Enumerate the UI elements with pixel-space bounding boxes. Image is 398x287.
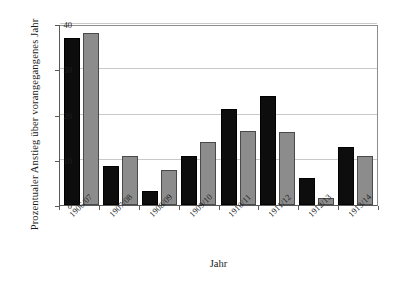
bar-group (297, 26, 336, 205)
x-tick-mark (378, 206, 379, 210)
bar-1906-07-s2 (83, 33, 99, 205)
bar-1907-08-s1 (103, 166, 119, 205)
bar-chart-figure: Prozentualer Anstieg über vorangegangene… (0, 0, 398, 287)
bar-group (258, 26, 297, 205)
bar-group (179, 26, 218, 205)
y-tick-mark (55, 116, 60, 117)
bar-1912-13-s1 (299, 178, 315, 205)
y-tick-mark (55, 70, 60, 71)
y-tick-mark (55, 25, 60, 26)
bar-group (336, 26, 375, 205)
gridline (60, 23, 377, 24)
bar-1913-14-s1 (338, 147, 354, 205)
bar-1910-11-s1 (221, 109, 237, 205)
bar-group (101, 26, 140, 205)
x-axis-tick-labels: 1906/071907/081908/091909/101910/111911/… (59, 206, 378, 252)
bar-group (140, 26, 179, 205)
bars-layer (60, 26, 377, 205)
bar-group (219, 26, 258, 205)
bar-1911-12-s1 (260, 96, 276, 205)
y-axis-title: Prozentualer Anstieg über vorangegangene… (26, 17, 44, 232)
x-axis-title: Jahr (59, 258, 378, 269)
bar-1909-10-s1 (181, 156, 197, 205)
y-tick-mark (55, 161, 60, 162)
bar-1906-07-s1 (64, 38, 80, 205)
plot-area (59, 25, 378, 206)
